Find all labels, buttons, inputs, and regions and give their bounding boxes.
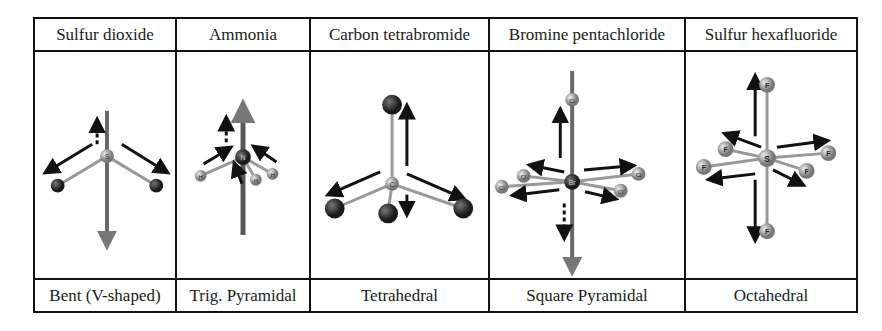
svg-text:Cl: Cl: [569, 98, 575, 104]
bond-dipole-arrow: [773, 170, 799, 183]
ligand-atom: [325, 199, 345, 219]
geometry-label-cell: Octahedral: [685, 279, 857, 312]
svg-text:S: S: [105, 153, 110, 160]
ligand-atom: [149, 179, 163, 193]
bond-dipole-arrow: [535, 166, 565, 172]
bond-dipole-arrow: [729, 135, 761, 147]
bond-dipole-arrow: [714, 174, 756, 179]
brcl5-diagram-cell: Br Cl Cl Cl Cl Cl: [489, 51, 685, 279]
so2-diagram-cell: S: [34, 51, 176, 279]
geometry-label-cell: Trig. Pyramidal: [176, 279, 310, 312]
bond-dipole-arrow: [333, 172, 380, 193]
ligand-atom: [453, 199, 473, 219]
geometry-label-cell: Square Pyramidal: [489, 279, 685, 312]
diagram-row: S N H H H: [34, 51, 857, 279]
svg-text:H: H: [254, 178, 258, 184]
svg-text:H: H: [270, 172, 274, 178]
header-row: Sulfur dioxide Ammonia Carbon tetrabromi…: [34, 18, 857, 51]
svg-text:F: F: [723, 146, 727, 153]
svg-text:F: F: [765, 228, 769, 235]
molecule-name-cell: Sulfur hexafluoride: [685, 18, 857, 51]
cbr4-diagram-cell: C: [310, 51, 489, 279]
svg-text:Cl: Cl: [618, 189, 624, 195]
molecule-name-cell: Ammonia: [176, 18, 310, 51]
sf6-diagram-cell: S F F F F F F: [685, 51, 857, 279]
ligand-atom: [51, 179, 65, 193]
geometry-row: Bent (V-shaped) Trig. Pyramidal Tetrahed…: [34, 279, 857, 312]
svg-text:H: H: [199, 174, 203, 180]
bond-dipole-arrow: [50, 144, 92, 170]
molecule-name-cell: Bromine pentachloride: [489, 18, 685, 51]
bond-dipole-arrow: [122, 144, 163, 170]
bond-dipole-arrow: [258, 149, 277, 162]
ligand-atom: [382, 95, 402, 115]
bond-dipole-arrow: [585, 192, 611, 198]
brcl5-molecule-diagram: Br Cl Cl Cl Cl Cl: [490, 52, 684, 278]
svg-text:F: F: [826, 150, 830, 157]
nh3-molecule-diagram: N H H H: [177, 52, 309, 278]
svg-text:N: N: [241, 154, 246, 161]
bond-dipole-arrow: [584, 166, 629, 170]
ligand-atom: [378, 204, 398, 224]
svg-text:Cl: Cl: [636, 172, 642, 178]
bond-dipole-arrow: [777, 141, 822, 147]
so2-molecule-diagram: S: [35, 52, 175, 278]
svg-text:S: S: [764, 154, 770, 164]
geometry-label-cell: Tetrahedral: [310, 279, 489, 312]
sf6-molecule-diagram: S F F F F F F: [686, 52, 856, 278]
svg-text:F: F: [804, 168, 808, 175]
nh3-diagram-cell: N H H H: [176, 51, 310, 279]
molecule-name-cell: Sulfur dioxide: [34, 18, 176, 51]
bond-dipole-arrow: [204, 150, 227, 164]
cbr4-molecule-diagram: C: [311, 52, 488, 278]
molecular-geometry-table: Sulfur dioxide Ammonia Carbon tetrabromi…: [33, 17, 858, 313]
svg-text:C: C: [390, 181, 395, 188]
svg-text:F: F: [765, 82, 769, 89]
molecule-name-cell: Carbon tetrabromide: [310, 18, 489, 51]
svg-text:Cl: Cl: [499, 185, 505, 191]
geometry-label-cell: Bent (V-shaped): [34, 279, 176, 312]
svg-text:Br: Br: [569, 179, 577, 186]
svg-text:F: F: [702, 164, 706, 171]
svg-text:Cl: Cl: [521, 174, 527, 180]
bond-dipole-arrow: [518, 190, 560, 195]
